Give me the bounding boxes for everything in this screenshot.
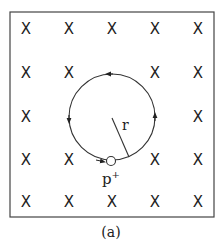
field-x-icon: X [21,151,31,169]
direction-arrow-bottom [96,160,103,162]
field-x-icon: X [21,108,31,126]
field-x-icon: X [64,151,74,169]
field-x-icon: X [193,108,203,126]
field-x-icon: X [107,20,117,38]
field-x-icon: X [64,64,74,82]
field-x-icon: X [21,193,31,211]
field-x-icon: X [21,64,31,82]
field-x-icon: X [150,151,160,169]
field-x-icon: X [150,193,160,211]
field-into-page-markers: XXXXXXXXXXXXXXXXXXXX [21,20,203,211]
orbit-path [69,74,155,160]
field-x-icon: X [107,193,117,211]
field-x-icon: X [193,64,203,82]
magnetic-field-diagram: XXXXXXXXXXXXXXXXXXXX r p+ (a) [0,0,223,242]
figure-caption: (a) [101,224,120,240]
field-x-icon: X [64,193,74,211]
field-x-icon: X [21,20,31,38]
field-region-border [10,12,214,217]
proton-particle [107,157,116,166]
field-x-icon: X [193,20,203,38]
particle-label: p+ [102,169,120,188]
radius-label: r [122,117,129,133]
field-x-icon: X [150,64,160,82]
field-x-icon: X [64,20,74,38]
field-x-icon: X [150,20,160,38]
field-x-icon: X [193,151,203,169]
field-x-icon: X [193,193,203,211]
